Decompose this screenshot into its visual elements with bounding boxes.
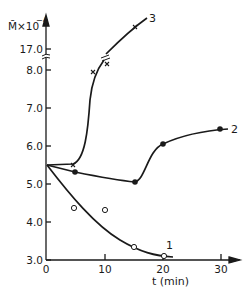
curve-1-marker [161,253,166,258]
curve-2-label: 2 [231,123,238,136]
x-tick-label: 10 [98,263,111,275]
series-3: 3 [47,12,156,167]
curve-3-label: 3 [149,12,156,25]
x-axis-title: t (min) [152,275,189,288]
x-tick-label: 20 [156,263,169,275]
curve-1-label: 1 [166,239,173,252]
curve-3-break-icon [101,55,110,61]
y-tick-label: 4.0 [26,216,43,228]
curve-2-marker [132,179,138,185]
curve-3-marker [91,70,95,74]
y-tick-label: 3.0 [26,254,43,266]
x-tick-label: 0 [43,263,50,275]
y-tick-label: 6.0 [26,140,43,152]
series-2: 2 [47,123,238,185]
curve-3-marker [105,62,109,66]
curve-3-line-lower [47,60,104,165]
curve-2-marker [72,169,78,175]
y-tick-label: 8.0 [26,64,43,76]
y-tick-label: 17.0 [20,43,43,55]
curve-1-marker [131,244,136,249]
curve-2-marker [160,141,166,147]
y-tick-label: 7.0 [26,102,43,114]
tick-labels: 3.0 4.0 5.0 6.0 7.0 8.0 17.0 0 10 20 30 [20,43,228,275]
curve-1-marker [71,205,76,210]
molecular-weight-vs-time-chart: 3.0 4.0 5.0 6.0 7.0 8.0 17.0 0 10 20 30 … [0,0,251,294]
curve-2-marker [217,126,223,132]
y-axis-title: M̄×10 [8,20,39,32]
curve-1-marker [102,207,107,212]
curve-3-line-upper [106,18,147,54]
y-tick-label: 5.0 [26,178,43,190]
x-tick-label: 30 [214,263,227,275]
y-axis-title-exponent: −4 [36,16,48,25]
axes [42,15,240,263]
x-axis-arrow-icon [229,257,240,263]
